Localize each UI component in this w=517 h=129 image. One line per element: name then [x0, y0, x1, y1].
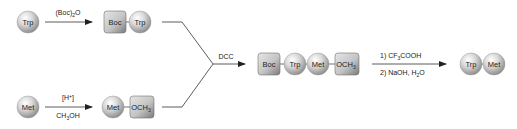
met-och3-product: Met OCH3 [102, 96, 154, 118]
tfa-reagent-label: 1) CF3COOH [380, 52, 421, 61]
reaction-scheme: Trp (Boc)2O Boc Trp Met [H+] CH3OH Met O… [0, 0, 517, 129]
boc-trp-product: Boc Trp [104, 11, 151, 33]
met-label: Met [22, 103, 35, 112]
trp-label: Trp [23, 18, 34, 27]
met-label: Met [312, 60, 325, 69]
methanol-reagent-label: CH3OH [56, 112, 79, 121]
trp-label: Trp [466, 60, 477, 69]
boc2o-reagent-label: (Boc)2O [56, 9, 82, 18]
dcc-reagent-label: DCC [218, 53, 233, 60]
final-dipeptide: Trp Met [460, 53, 505, 75]
deprotection-arrow: 1) CF3COOH 2) NaOH, H2O [372, 52, 446, 78]
boc-label: Boc [263, 60, 276, 69]
met-label: Met [488, 60, 501, 69]
trp-reactant: Trp [17, 11, 39, 33]
naoh-reagent-label: 2) NaOH, H2O [380, 69, 425, 78]
met-label: Met [107, 103, 120, 112]
boc2o-arrow: (Boc)2O [45, 9, 92, 22]
trp-label: Trp [135, 18, 146, 27]
protected-dipeptide: Boc Trp Met OCH3 [258, 53, 359, 75]
acid-reagent-label: [H+] [62, 93, 74, 103]
boc-label: Boc [109, 18, 122, 27]
met-reactant: Met [17, 96, 39, 118]
esterification-arrow: [H+] CH3OH [45, 93, 92, 122]
trp-label: Trp [290, 60, 301, 69]
convergence-lines: DCC [162, 22, 245, 107]
